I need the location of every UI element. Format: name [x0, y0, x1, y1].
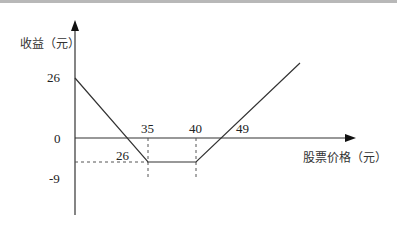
y-tick-0: 0 — [54, 131, 61, 146]
x-annot-49: 49 — [236, 121, 249, 136]
payoff-chart: 收益（元） 26 0 -9 26 35 40 49 股票价格（元） — [0, 0, 397, 228]
x-axis-arrow-icon — [345, 134, 356, 142]
y-axis-arrow-icon — [71, 20, 79, 31]
y-tick-26: 26 — [47, 70, 61, 85]
x-axis-label: 股票价格（元） — [303, 150, 387, 165]
x-annot-35: 35 — [141, 121, 154, 136]
y-tick-minus9: -9 — [49, 171, 60, 186]
x-annot-40: 40 — [189, 121, 202, 136]
payoff-line — [75, 63, 300, 162]
y-axis-label: 收益（元） — [20, 37, 80, 51]
x-annot-26: 26 — [116, 148, 130, 163]
